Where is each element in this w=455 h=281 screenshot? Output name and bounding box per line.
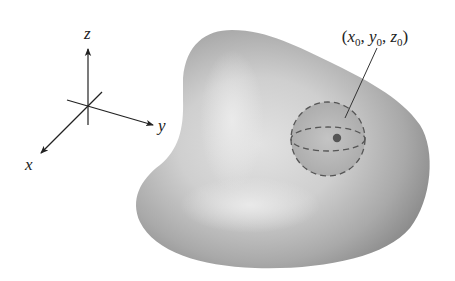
point-label: (x0, y0, z0) [342,27,409,48]
y-axis [67,100,153,125]
solid-region-shape [136,30,430,268]
highlight-ridge [200,50,264,190]
highlight-lower [180,177,320,233]
ball-sphere [291,102,365,176]
z-axis-label: z [83,24,91,43]
solid-region-figure: (x0, y0, z0) z y x [0,0,455,281]
x-axis-label: x [24,155,33,174]
ball [291,102,365,176]
solid-region [136,30,430,268]
coordinate-axes [41,49,153,153]
center-point [333,134,341,142]
y-axis-label: y [156,116,166,135]
